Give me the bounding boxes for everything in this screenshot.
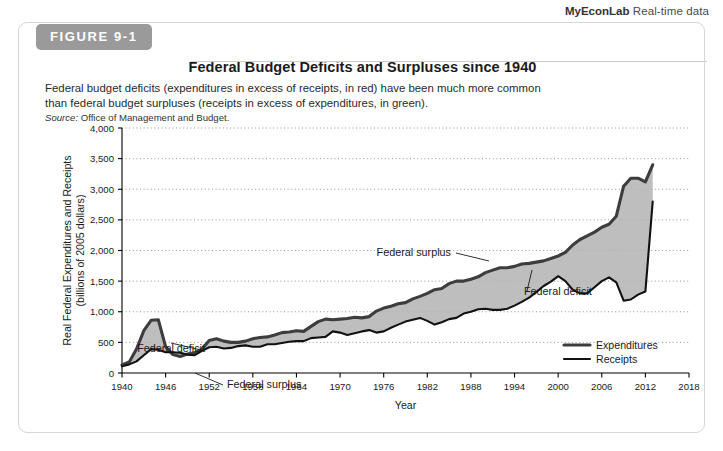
x-tick-label: 2006 bbox=[591, 381, 612, 392]
y-tick-label: 3,000 bbox=[90, 184, 114, 195]
myeconlab-brand: MyEconLab bbox=[565, 5, 630, 17]
figure-page: MyEconLab Real-time data Federal Budget … bbox=[0, 0, 723, 451]
legend-label-receipts: Receipts bbox=[596, 353, 637, 365]
annotation-deficit-left: Federal deficit bbox=[137, 342, 205, 354]
myeconlab-suffix: Real-time data bbox=[630, 5, 709, 17]
y-tick-label: 4,000 bbox=[90, 123, 114, 134]
y-tick-label: 0 bbox=[109, 368, 114, 379]
y-tick-label: 3,500 bbox=[90, 153, 114, 164]
x-tick-label: 1940 bbox=[111, 381, 132, 392]
y-tick-label: 500 bbox=[98, 337, 114, 348]
annotation-surplus-left: Federal surplus bbox=[227, 378, 302, 390]
y-tick-label: 1,000 bbox=[90, 306, 114, 317]
x-tick-label: 1970 bbox=[329, 381, 350, 392]
x-tick-label: 2000 bbox=[547, 381, 568, 392]
y-tick-label: 2,500 bbox=[90, 214, 114, 225]
deficit-surplus-band bbox=[122, 165, 653, 366]
x-axis-title: Year bbox=[395, 399, 417, 411]
figure-number-tab: FIGURE 9-1 bbox=[36, 24, 152, 50]
annotation-surplus-right: Federal surplus bbox=[377, 246, 452, 258]
y-tick-label: 1,500 bbox=[90, 276, 114, 287]
figure-card: Federal Budget Deficits and Surpluses si… bbox=[18, 22, 705, 433]
y-axis-title-line2: (billions of 2005 dollars) bbox=[74, 195, 86, 307]
legend-label-expenditures: Expenditures bbox=[596, 339, 658, 351]
header-rule bbox=[191, 61, 707, 62]
budget-chart-svg: 05001,0001,5002,0002,5003,0003,5004,0001… bbox=[19, 23, 706, 434]
x-tick-label: 1988 bbox=[460, 381, 481, 392]
x-tick-label: 2018 bbox=[678, 381, 699, 392]
x-tick-label: 1976 bbox=[373, 381, 394, 392]
annotation-leader-surplus-right bbox=[456, 253, 489, 261]
x-tick-label: 1994 bbox=[504, 381, 526, 392]
annotation-deficit-right: Federal deficit bbox=[524, 285, 592, 297]
x-tick-label: 1982 bbox=[417, 381, 438, 392]
chart-area: 05001,0001,5002,0002,5003,0003,5004,0001… bbox=[19, 23, 706, 434]
myeconlab-branding: MyEconLab Real-time data bbox=[565, 5, 709, 17]
x-tick-label: 2012 bbox=[635, 381, 656, 392]
x-tick-label: 1946 bbox=[155, 381, 176, 392]
y-tick-label: 2,000 bbox=[90, 245, 114, 256]
chart-legend: ExpendituresReceipts bbox=[564, 339, 658, 365]
y-axis-title-line1: Real Federal Expenditures and Receipts bbox=[61, 155, 73, 345]
